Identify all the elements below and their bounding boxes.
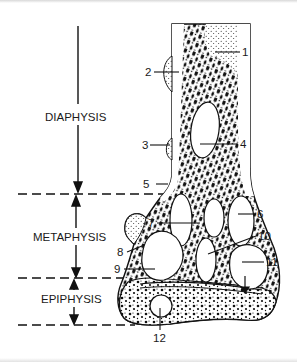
callout-11: 11 xyxy=(266,256,278,268)
region-arrows xyxy=(70,26,82,324)
callout-8: 8 xyxy=(117,246,123,258)
callout-10: 10 xyxy=(258,230,271,242)
callout-2: 2 xyxy=(145,66,151,78)
callout-6: 6 xyxy=(257,208,263,220)
label-diaphysis: DIAPHYSIS xyxy=(45,111,107,123)
callout-1: 1 xyxy=(242,46,248,58)
callout-7: 7 xyxy=(148,217,154,229)
bone-diagram: DIAPHYSIS METAPHYSIS EPIPHYSIS xyxy=(0,0,297,362)
callout-5: 5 xyxy=(143,178,149,190)
callout-9: 9 xyxy=(114,263,120,275)
label-epiphysis: EPIPHYSIS xyxy=(41,293,102,305)
bottom-edge xyxy=(0,358,297,362)
callout-12: 12 xyxy=(153,332,166,344)
callout-4: 4 xyxy=(240,138,247,150)
callout-3: 3 xyxy=(142,139,148,151)
label-metaphysis: METAPHYSIS xyxy=(33,231,107,243)
